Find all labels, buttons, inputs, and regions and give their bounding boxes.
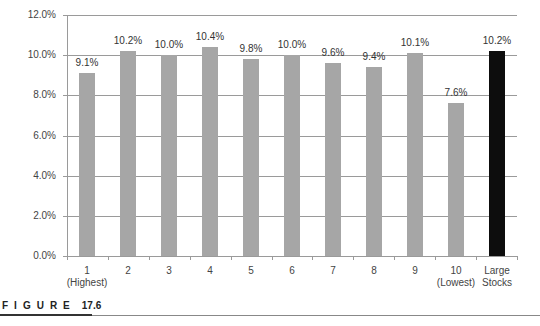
bar: [120, 51, 136, 256]
bar: [161, 55, 177, 256]
data-label: 10.0%: [272, 39, 312, 50]
bar: [79, 73, 95, 256]
data-label: 9.8%: [231, 43, 271, 54]
data-label: 9.1%: [67, 57, 107, 68]
bar: [489, 51, 505, 256]
bar: [366, 67, 382, 256]
x-tick: [67, 256, 68, 260]
figure-number: 17.6: [82, 300, 101, 311]
y-tick-label: 0.0%: [0, 250, 56, 261]
bar: [407, 53, 423, 256]
y-tick-label: 10.0%: [0, 49, 56, 60]
bar: [448, 103, 464, 256]
bar: [243, 59, 259, 256]
x-tick: [312, 256, 313, 260]
figure-underline: [0, 314, 92, 316]
x-tick: [517, 256, 518, 260]
x-tick: [108, 256, 109, 260]
data-label: 9.6%: [313, 47, 353, 58]
data-label: 7.6%: [436, 87, 476, 98]
x-tick: [231, 256, 232, 260]
y-tick-label: 4.0%: [0, 170, 56, 181]
y-tick-label: 8.0%: [0, 89, 56, 100]
bar-chart: 0.0%2.0%4.0%6.0%8.0%10.0%12.0%9.1%1 (Hig…: [0, 0, 540, 300]
x-tick: [435, 256, 436, 260]
x-tick: [476, 256, 477, 260]
x-tick: [149, 256, 150, 260]
gridline: [63, 256, 517, 257]
x-tick: [272, 256, 273, 260]
x-tick-label: Large Stocks: [473, 265, 521, 289]
figure-caption: FIGURE17.6: [2, 300, 101, 311]
x-tick: [353, 256, 354, 260]
figure-label: FIGURE: [2, 300, 76, 311]
data-label: 10.2%: [108, 35, 148, 46]
data-label: 9.4%: [354, 51, 394, 62]
y-tick-label: 2.0%: [0, 210, 56, 221]
data-label: 10.2%: [477, 35, 517, 46]
y-tick-label: 12.0%: [0, 9, 56, 20]
data-label: 10.4%: [190, 31, 230, 42]
figure-rule: [92, 315, 540, 316]
y-tick-label: 6.0%: [0, 130, 56, 141]
bar: [284, 55, 300, 256]
x-tick: [190, 256, 191, 260]
data-label: 10.0%: [149, 39, 189, 50]
bar: [325, 63, 341, 256]
x-tick: [394, 256, 395, 260]
bar: [202, 47, 218, 256]
gridline: [63, 15, 517, 16]
data-label: 10.1%: [395, 37, 435, 48]
y-axis: [67, 15, 68, 257]
